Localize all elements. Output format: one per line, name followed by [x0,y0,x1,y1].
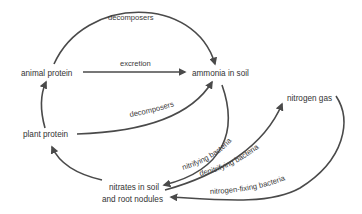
label-decomposers-top: decomposers [108,13,154,22]
nitrogen-cycle-diagram: animal protein ammonia in soil plant pro… [0,0,362,214]
edge-nitrates-to-plant [52,147,102,180]
node-animal-protein: animal protein [21,69,73,78]
node-ammonia-in-soil: ammonia in soil [192,69,249,78]
node-plant-protein: plant protein [23,130,69,139]
label-decomposers-mid: decomposers [129,99,175,119]
node-nitrates-line2: and root nodules [102,195,163,204]
label-excretion: excretion [120,59,151,68]
node-nitrogen-gas: nitrogen gas [287,94,332,103]
node-nitrates-line1: nitrates in soil [109,183,159,192]
label-nitrogen-fixing-bacteria: nitrogen-fixing bacteria [210,173,287,196]
edge-plant-to-animal [41,82,46,128]
